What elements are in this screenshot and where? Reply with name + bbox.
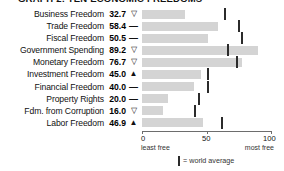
score-bar <box>142 82 194 91</box>
axis-least-free-label: least free <box>141 143 170 152</box>
trend-up-icon: ▲ <box>128 68 139 80</box>
economic-freedoms-chart: Business Freedom32.7▽Trade Freedom58.4—F… <box>0 8 284 171</box>
table-row: Fdm. from Corruption16.0▽ <box>0 105 284 117</box>
axis-label-0: 0 <box>141 134 145 143</box>
trend-down-icon: ▽ <box>128 56 139 68</box>
freedom-score-value: 16.0 <box>105 105 126 117</box>
plot-area <box>142 106 272 115</box>
table-row: Property Rights20.0— <box>0 93 284 105</box>
table-row: Monetary Freedom76.7▽ <box>0 56 284 68</box>
trend-flat-icon: — <box>128 81 139 93</box>
score-bar <box>142 70 201 79</box>
world-average-tick <box>236 56 238 68</box>
trend-down-icon: ▽ <box>128 105 139 117</box>
score-bar <box>142 46 258 55</box>
chart-title-strip: GRAPH 2: TEN ECONOMIC FREEDOMS <box>0 0 284 5</box>
axis-most-free-label: most free <box>245 143 274 152</box>
table-row: Fiscal Freedom50.5— <box>0 32 284 44</box>
x-axis <box>142 131 272 132</box>
score-bar <box>142 34 208 43</box>
table-row: Investment Freedom45.0▲ <box>0 68 284 80</box>
world-average-tick <box>238 20 240 32</box>
freedom-label: Labor Freedom <box>0 117 104 129</box>
plot-area <box>142 46 272 55</box>
score-bar <box>142 22 218 31</box>
freedom-label: Fdm. from Corruption <box>0 105 104 117</box>
table-row: Financial Freedom40.0— <box>0 81 284 93</box>
table-row: Business Freedom32.7▽ <box>0 8 284 20</box>
table-row: Government Spending89.2▽ <box>0 44 284 56</box>
plot-area <box>142 10 272 19</box>
chart-rows: Business Freedom32.7▽Trade Freedom58.4—F… <box>0 8 284 129</box>
world-average-tick <box>224 8 226 20</box>
world-average-tick <box>194 105 196 117</box>
plot-area <box>142 94 272 103</box>
trend-up-icon: ▲ <box>128 117 139 129</box>
axis-label-100: 100 <box>263 134 276 143</box>
legend: = world average <box>178 155 234 167</box>
world-average-tick <box>221 117 223 129</box>
world-average-tick <box>207 81 209 93</box>
trend-down-icon: ▽ <box>128 8 139 20</box>
freedom-score-value: 32.7 <box>105 8 126 20</box>
score-bar <box>142 94 168 103</box>
trend-flat-icon: — <box>128 93 139 105</box>
axis-endpoint-labels: least free most free <box>120 143 284 153</box>
page-title: GRAPH 2: TEN ECONOMIC FREEDOMS <box>0 0 284 5</box>
freedom-label: Property Rights <box>0 93 104 105</box>
trend-down-icon: ▽ <box>128 44 139 56</box>
freedom-label: Investment Freedom <box>0 68 104 80</box>
plot-area <box>142 118 272 127</box>
freedom-score-value: 46.9 <box>105 117 126 129</box>
world-average-tick <box>227 44 229 56</box>
freedom-score-value: 76.7 <box>105 56 126 68</box>
freedom-score-value: 20.0 <box>105 93 126 105</box>
trend-flat-icon: — <box>128 20 139 32</box>
freedom-score-value: 40.0 <box>105 81 126 93</box>
freedom-label: Monetary Freedom <box>0 56 104 68</box>
plot-area <box>142 82 272 91</box>
score-bar <box>142 58 242 67</box>
world-average-tick-icon <box>178 156 180 166</box>
trend-flat-icon: — <box>128 32 139 44</box>
legend-label: = world average <box>183 156 234 166</box>
freedom-score-value: 89.2 <box>105 44 126 56</box>
plot-area <box>142 70 272 79</box>
world-average-tick <box>198 93 200 105</box>
table-row: Labor Freedom46.9▲ <box>0 117 284 129</box>
freedom-label: Business Freedom <box>0 8 104 20</box>
score-bar <box>142 10 185 19</box>
freedom-label: Trade Freedom <box>0 20 104 32</box>
plot-area <box>142 58 272 67</box>
world-average-tick <box>241 32 243 44</box>
freedom-score-value: 50.5 <box>105 32 126 44</box>
plot-area <box>142 22 272 31</box>
freedom-label: Financial Freedom <box>0 81 104 93</box>
score-bar <box>142 106 163 115</box>
table-row: Trade Freedom58.4— <box>0 20 284 32</box>
freedom-score-value: 58.4 <box>105 20 126 32</box>
freedom-label: Government Spending <box>0 44 104 56</box>
freedom-label: Fiscal Freedom <box>0 32 104 44</box>
plot-area <box>142 34 272 43</box>
axis-label-50: 50 <box>202 134 210 143</box>
freedom-score-value: 45.0 <box>105 68 126 80</box>
world-average-tick <box>207 68 209 80</box>
score-bar <box>142 118 203 127</box>
